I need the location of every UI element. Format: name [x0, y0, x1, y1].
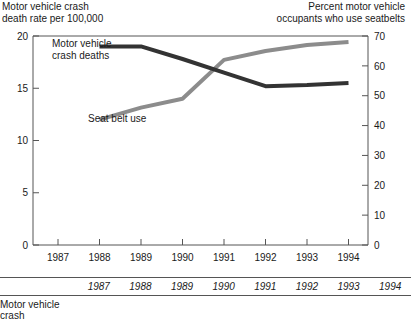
series-label-motor-vehicle-crash-deaths: Motor vehicle crash deaths	[52, 38, 111, 61]
table-header-1994: 1994	[369, 278, 411, 296]
table-header-1992: 1992	[286, 278, 328, 296]
table-header-1987: 1987	[78, 278, 120, 296]
x-tick-label-1987: 1987	[47, 252, 70, 263]
table-header-1991: 1991	[245, 278, 287, 296]
right-tick-label-10: 10	[374, 210, 386, 221]
table-header-1989: 1989	[161, 278, 203, 296]
table-cell	[328, 296, 370, 322]
right-axis-ticks	[362, 36, 368, 245]
table-header-1988: 1988	[120, 278, 162, 296]
table-cell	[203, 296, 245, 322]
x-tick-label-1988: 1988	[88, 252, 111, 263]
table-cell	[245, 296, 287, 322]
table-cell	[78, 296, 120, 322]
right-tick-label-20: 20	[374, 180, 386, 191]
table-row-label: Motor vehicle crash	[0, 296, 78, 322]
right-axis-tick-labels: 70 60 50 40 30 20 10 0	[374, 31, 386, 251]
x-axis-ticks	[58, 239, 349, 245]
table-cell	[369, 296, 411, 322]
table-header-1993: 1993	[328, 278, 370, 296]
left-tick-label-15: 15	[17, 83, 29, 94]
data-table: 1987 1988 1989 1990 1991 1992 1993 1994 …	[0, 277, 411, 321]
left-tick-label-0: 0	[22, 240, 28, 251]
left-tick-label-10: 10	[17, 135, 29, 146]
series-line-motor-vehicle-crash-deaths	[100, 46, 349, 86]
right-tick-label-0: 0	[374, 240, 380, 251]
table-cell	[286, 296, 328, 322]
left-axis-ticks	[33, 36, 39, 245]
table-row: Motor vehicle crash	[0, 296, 411, 322]
left-tick-label-20: 20	[17, 31, 29, 42]
axis-frame	[33, 36, 368, 245]
left-tick-label-5: 5	[22, 187, 28, 198]
series-line-seat-belt-use	[100, 42, 349, 120]
x-tick-label-1989: 1989	[130, 252, 153, 263]
x-tick-label-1992: 1992	[254, 252, 277, 263]
left-axis-tick-labels: 20 15 10 5 0	[17, 31, 29, 251]
table-cell	[161, 296, 203, 322]
right-tick-label-30: 30	[374, 150, 386, 161]
chart-figure: Motor vehicle crash death rate per 100,0…	[0, 0, 411, 322]
right-tick-label-50: 50	[374, 90, 386, 101]
table-header-row: 1987 1988 1989 1990 1991 1992 1993 1994	[0, 278, 411, 296]
x-axis-tick-labels: 1987 1988 1989 1990 1991 1992 1993 1994	[47, 252, 360, 263]
right-tick-label-70: 70	[374, 31, 386, 42]
x-tick-label-1993: 1993	[296, 252, 319, 263]
right-tick-label-40: 40	[374, 120, 386, 131]
table-cell	[120, 296, 162, 322]
x-tick-label-1990: 1990	[171, 252, 194, 263]
table-header-1990: 1990	[203, 278, 245, 296]
series-label-seat-belt-use: Seat belt use	[88, 113, 146, 125]
right-tick-label-60: 60	[374, 61, 386, 72]
x-tick-label-1994: 1994	[337, 252, 360, 263]
table-header-rowlabel	[0, 278, 78, 296]
x-tick-label-1991: 1991	[213, 252, 236, 263]
